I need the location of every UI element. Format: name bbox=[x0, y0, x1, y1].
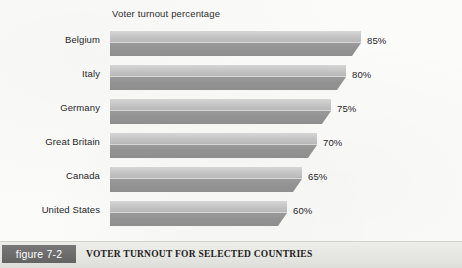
bar-front-face bbox=[110, 213, 287, 226]
bar-value-label: 80% bbox=[352, 69, 371, 80]
bar-seam bbox=[110, 144, 317, 145]
bar-category-label: United States bbox=[0, 204, 100, 215]
figure-number-badge: figure 7-2 bbox=[2, 245, 76, 263]
bar-front-face bbox=[110, 179, 302, 192]
bar-seam bbox=[110, 178, 302, 179]
bar-seam bbox=[110, 212, 287, 213]
bar-value-label: 60% bbox=[293, 205, 312, 216]
bar-seam bbox=[110, 42, 361, 43]
chart-plot-area: Belgium 85% Italy 80% Germany bbox=[0, 26, 462, 234]
bar-value-label: 65% bbox=[308, 171, 327, 182]
bar-seam bbox=[110, 76, 346, 77]
bar-germany bbox=[110, 99, 331, 124]
bar-front-face bbox=[110, 77, 346, 90]
chart-title: Voter turnout percentage bbox=[112, 8, 220, 19]
bar-great-britain bbox=[110, 133, 317, 158]
figure-voter-turnout: Voter turnout percentage Belgium 85% Ita… bbox=[0, 0, 462, 268]
bar-category-label: Great Britain bbox=[0, 136, 100, 147]
bar-united-states bbox=[110, 201, 287, 226]
bar-front-face bbox=[110, 111, 331, 124]
bar-row: Great Britain 70% bbox=[0, 128, 462, 162]
bar-value-label: 70% bbox=[323, 137, 342, 148]
bar-front-face bbox=[110, 145, 317, 158]
figure-caption-bar: figure 7-2 VOTER TURNOUT FOR SELECTED CO… bbox=[0, 241, 462, 268]
bar-row: Germany 75% bbox=[0, 94, 462, 128]
bar-category-label: Belgium bbox=[0, 34, 100, 45]
bar-category-label: Germany bbox=[0, 102, 100, 113]
bar-category-label: Canada bbox=[0, 170, 100, 181]
bar-italy bbox=[110, 65, 346, 90]
bar-front-face bbox=[110, 43, 361, 56]
figure-caption-text: VOTER TURNOUT FOR SELECTED COUNTRIES bbox=[86, 247, 312, 261]
bar-value-label: 75% bbox=[337, 103, 356, 114]
bar-belgium bbox=[110, 31, 361, 56]
bar-category-label: Italy bbox=[0, 68, 100, 79]
bar-canada bbox=[110, 167, 302, 192]
bar-row: Canada 65% bbox=[0, 162, 462, 196]
bar-row: Italy 80% bbox=[0, 60, 462, 94]
bar-row: United States 60% bbox=[0, 196, 462, 230]
bar-value-label: 85% bbox=[367, 35, 386, 46]
bar-row: Belgium 85% bbox=[0, 26, 462, 60]
bar-seam bbox=[110, 110, 331, 111]
